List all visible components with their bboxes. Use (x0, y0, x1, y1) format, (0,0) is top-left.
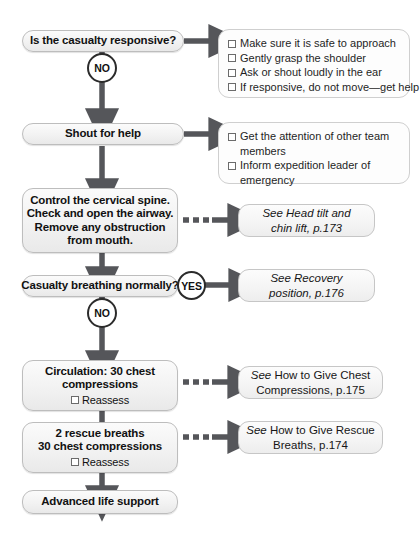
checkbox-icon (228, 40, 236, 48)
node-advanced-life-support[interactable]: Advanced life support (22, 490, 178, 514)
badge-label: NO (94, 62, 109, 74)
node-label-line-4: from mouth. (67, 234, 132, 248)
refbox-line-1: How to Give Rescue (270, 424, 375, 436)
panel-responsive-checklist: Make sure it is safe to approach Gently … (218, 29, 410, 98)
refbox-line-2: Compressions, p.175 (256, 384, 365, 396)
list-item: Get the attention of other team members (228, 129, 401, 158)
list-item-label: Ask or shout loudly in the ear (240, 66, 382, 78)
list-item: Ask or shout loudly in the ear (228, 65, 401, 80)
sub-item-reassess: Reassess (71, 455, 129, 469)
node-label: Is the casualty responsive? (30, 34, 176, 48)
refbox-text: See How to Give Rescue Breaths, p.174 (240, 423, 381, 452)
badge-label: NO (94, 307, 109, 319)
checklist: Get the attention of other team members … (228, 129, 401, 187)
checkbox-icon (228, 133, 236, 141)
node-casualty-breathing-normally[interactable]: Casualty breathing normally? (22, 275, 178, 297)
badge-no-breathing: NO (87, 298, 117, 328)
checkbox-icon (228, 54, 236, 62)
list-item: Inform expedition leader of emergency (228, 158, 401, 187)
sub-item-reassess: Reassess (71, 393, 129, 407)
refbox-line-2: position, p.176 (269, 287, 344, 299)
refbox-how-to-give-rescue-breaths[interactable]: See How to Give Rescue Breaths, p.174 (238, 421, 383, 454)
node-label-line-3: Remove any obstruction (35, 221, 166, 235)
list-item-label: Get the attention of other team members (240, 130, 389, 157)
refbox-line-2: chin lift, p.173 (271, 222, 342, 234)
node-rescue-breaths-compressions[interactable]: 2 rescue breaths 30 chest compressions R… (22, 422, 178, 473)
badge-yes-breathing: YES (177, 271, 206, 300)
see-label: See (262, 207, 282, 219)
list-item-label: If responsive, do not move—get help (240, 81, 419, 93)
refbox-how-to-give-chest-compressions[interactable]: See How to Give Chest Compressions, p.17… (238, 366, 383, 399)
node-circulation-chest-compressions[interactable]: Circulation: 30 chest compressions Reass… (22, 360, 178, 411)
refbox-text: See Recovery position, p.176 (263, 271, 350, 300)
flowchart-canvas: Is the casualty responsive? NO Make sure… (0, 0, 420, 543)
node-label-line-1: 2 rescue breaths (55, 427, 144, 441)
see-label: See (246, 424, 266, 436)
node-label-line-2: compressions (62, 378, 138, 392)
node-label-line-2: Check and open the airway. (27, 207, 174, 221)
badge-label: YES (181, 280, 201, 292)
refbox-text: See Head tilt and chin lift, p.173 (256, 206, 356, 235)
see-label: See (270, 272, 290, 284)
sub-item-label: Reassess (82, 456, 129, 468)
sub-item-label: Reassess (82, 394, 129, 406)
checkbox-icon (228, 83, 236, 91)
node-label-line-1: Control the cervical spine. (30, 194, 170, 208)
list-item: If responsive, do not move—get help (228, 80, 401, 95)
node-label-line-1: Circulation: 30 chest (45, 365, 155, 379)
checkbox-icon (228, 69, 236, 77)
list-item: Gently grasp the shoulder (228, 51, 401, 66)
refbox-text: See How to Give Chest Compressions, p.17… (245, 368, 377, 397)
list-item-label: Inform expedition leader of emergency (240, 159, 370, 186)
refbox-line-2: Breaths, p.174 (273, 439, 348, 451)
panel-shout-checklist: Get the attention of other team members … (218, 122, 410, 184)
refbox-line-1: Head tilt and (286, 207, 351, 219)
refbox-line-1: Recovery (294, 272, 343, 284)
list-item: Make sure it is safe to approach (228, 36, 401, 51)
refbox-head-tilt-chin-lift[interactable]: See Head tilt and chin lift, p.173 (238, 204, 375, 237)
node-is-casualty-responsive[interactable]: Is the casualty responsive? (22, 30, 184, 52)
list-item-label: Make sure it is safe to approach (240, 37, 396, 49)
node-label: Advanced life support (41, 495, 159, 509)
node-control-cervical-spine[interactable]: Control the cervical spine. Check and op… (22, 188, 178, 253)
node-shout-for-help[interactable]: Shout for help (22, 123, 184, 145)
node-label: Shout for help (65, 127, 141, 141)
checkbox-icon (71, 396, 79, 404)
checklist: Make sure it is safe to approach Gently … (228, 36, 401, 94)
node-label: Casualty breathing normally? (21, 279, 178, 293)
list-item-label: Gently grasp the shoulder (240, 52, 366, 64)
checkbox-icon (71, 458, 79, 466)
see-label: See (251, 369, 271, 381)
checkbox-icon (228, 162, 236, 170)
node-label-line-2: 30 chest compressions (38, 440, 162, 454)
refbox-recovery-position[interactable]: See Recovery position, p.176 (238, 269, 375, 302)
refbox-line-1: How to Give Chest (274, 369, 370, 381)
badge-no-responsive: NO (87, 53, 117, 83)
